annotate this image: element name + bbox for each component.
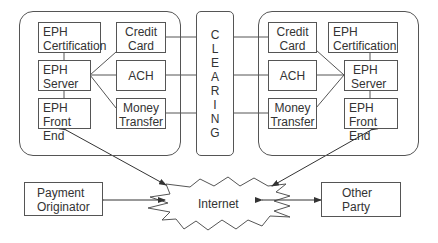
clearing-letter: A [197,70,233,84]
payment-originator-box: PaymentOriginator [24,182,103,216]
label: Payment [37,186,102,200]
right-ach-box: ACH [268,60,317,91]
label: EPH [333,25,397,39]
right-eph-certification-box: EPHCertification [328,22,398,53]
left-money-transfer-box: MoneyTransfer [116,98,166,129]
left-ach-box: ACH [116,60,166,91]
label: EPH [345,63,397,77]
label: Certification [333,39,397,53]
clearing-letter: R [197,84,233,98]
label: ACH [117,69,165,83]
clearing-letter: E [197,56,233,70]
clearing-letter: N [197,112,233,126]
right-eph-server-box: EPHServer [344,60,398,91]
clearing-letter: G [197,126,233,140]
right-money-transfer-box: MoneyTransfer [268,98,317,129]
label: Other [342,186,400,200]
clearing-letter: I [197,98,233,112]
label: ACH [269,69,316,83]
left-eph-server-box: EPHServer [38,60,91,91]
label: Transfer [269,115,316,129]
label: Server [43,77,90,91]
label: EPH [43,101,90,115]
label: Card [269,39,316,53]
internet-label: Internet [198,197,239,211]
label: EPH [43,63,90,77]
right-credit-card-box: CreditCard [268,22,317,53]
label: Credit [117,25,165,39]
left-eph-front-end-box: EPHFront End [38,98,91,129]
clearing-box: C L E A R I N G [196,11,234,156]
label: Originator [37,200,102,214]
clearing-letter: C [197,28,233,42]
clearing-letter: L [197,42,233,56]
label: Front End [43,115,90,143]
label: EPH [349,101,397,115]
label: Credit [269,25,316,39]
label: Money [269,101,316,115]
label: Card [117,39,165,53]
right-eph-front-end-box: EPHFront End [344,98,398,129]
label: Transfer [117,115,165,129]
label: Server [345,77,397,91]
other-party-box: OtherParty [321,182,401,217]
label: Money [117,101,165,115]
label: Certification [43,39,100,53]
label: EPH [43,25,100,39]
label: Front End [349,115,397,143]
left-eph-certification-box: EPHCertification [38,22,101,53]
left-credit-card-box: CreditCard [116,22,166,53]
label: Party [342,200,400,214]
